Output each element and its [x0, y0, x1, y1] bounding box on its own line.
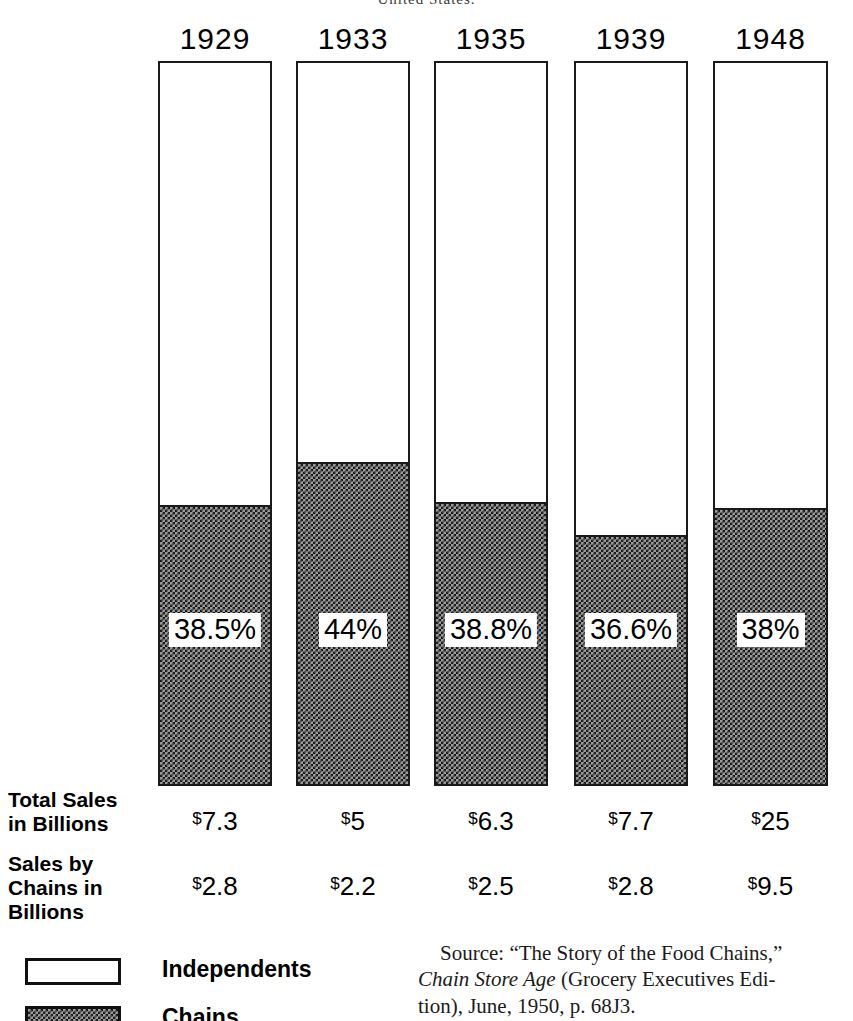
bar-fill-chains-1929: 38.5%	[160, 505, 270, 784]
value: 6.3	[478, 806, 514, 836]
bar-1939: 36.6%	[574, 61, 688, 786]
row-label-sales-by-chains: Sales by Chains in Billions	[8, 852, 103, 924]
currency-symbol: $	[751, 809, 760, 828]
value: 2.5	[478, 871, 514, 901]
bar-1948: 38%	[713, 61, 828, 786]
chain-sales-value-1929: $2.8	[158, 871, 272, 902]
currency-symbol: $	[192, 809, 201, 828]
currency-symbol: $	[468, 874, 477, 893]
currency-symbol: $	[608, 809, 617, 828]
legend-label-independents: Independents	[162, 956, 312, 983]
source-note-line3: tion), June, 1950, p. 68J3.	[418, 993, 846, 1019]
bar-1929: 38.5%	[158, 61, 272, 786]
bar-percent-label-1948: 38%	[736, 613, 804, 647]
bar-percent-label-1939: 36.6%	[585, 613, 677, 647]
year-label-1929: 1929	[158, 22, 272, 56]
cut-off-running-head: United States.	[0, 0, 853, 8]
total-sales-value-1935: $6.3	[434, 806, 548, 837]
value: 2.2	[340, 871, 376, 901]
currency-symbol: $	[748, 874, 757, 893]
chain-sales-value-1948: $9.5	[713, 871, 828, 902]
source-note-line2-rest: (Grocery Executives Edi-	[556, 967, 776, 991]
total-sales-value-1929: $7.3	[158, 806, 272, 837]
value: 25	[761, 806, 790, 836]
currency-symbol: $	[608, 874, 617, 893]
total-sales-value-1933: $5	[296, 806, 410, 837]
source-note: Source: “The Story of the Food Chains,” …	[418, 940, 846, 1019]
bar-fill-chains-1948: 38%	[715, 508, 826, 784]
chain-sales-value-1939: $2.8	[574, 871, 688, 902]
source-note-line2: Chain Store Age (Grocery Executives Edi-	[418, 966, 846, 992]
bar-fill-chains-1933: 44%	[298, 462, 408, 784]
row-label-total-sales-line2: in Billions	[8, 812, 117, 836]
row-label-sales-by-chains-line1: Sales by	[8, 852, 103, 876]
chart-figure: United States. 1929 1933 1935 1939 1948 …	[0, 0, 853, 1021]
value: 7.3	[202, 806, 238, 836]
value: 2.8	[618, 871, 654, 901]
chain-sales-value-1933: $2.2	[296, 871, 410, 902]
legend-swatch-independents	[25, 958, 121, 985]
value: 9.5	[757, 871, 793, 901]
bar-fill-chains-1939: 36.6%	[576, 535, 686, 784]
bar-percent-label-1935: 38.8%	[445, 613, 537, 647]
source-note-line1: Source: “The Story of the Food Chains,”	[418, 940, 846, 966]
bar-percent-label-1933: 44%	[319, 613, 387, 647]
total-sales-value-1948: $25	[713, 806, 828, 837]
source-note-publication: Chain Store Age	[418, 967, 556, 991]
legend-swatch-chains	[25, 1006, 121, 1021]
bar-fill-chains-1935: 38.8%	[436, 502, 546, 784]
bar-percent-label-1929: 38.5%	[169, 613, 261, 647]
chain-sales-value-1935: $2.5	[434, 871, 548, 902]
currency-symbol: $	[468, 809, 477, 828]
year-label-1939: 1939	[574, 22, 688, 56]
bar-1935: 38.8%	[434, 61, 548, 786]
currency-symbol: $	[330, 874, 339, 893]
total-sales-value-1939: $7.7	[574, 806, 688, 837]
row-label-total-sales: Total Sales in Billions	[8, 788, 117, 836]
bar-1933: 44%	[296, 61, 410, 786]
legend-label-chains: Chains	[162, 1004, 239, 1021]
year-label-1935: 1935	[434, 22, 548, 56]
currency-symbol: $	[341, 809, 350, 828]
value: 2.8	[202, 871, 238, 901]
value: 5	[351, 806, 365, 836]
year-label-1933: 1933	[296, 22, 410, 56]
row-label-sales-by-chains-line3: Billions	[8, 900, 103, 924]
row-label-sales-by-chains-line2: Chains in	[8, 876, 103, 900]
value: 7.7	[618, 806, 654, 836]
row-label-total-sales-line1: Total Sales	[8, 788, 117, 812]
year-label-1948: 1948	[713, 22, 828, 56]
currency-symbol: $	[192, 874, 201, 893]
